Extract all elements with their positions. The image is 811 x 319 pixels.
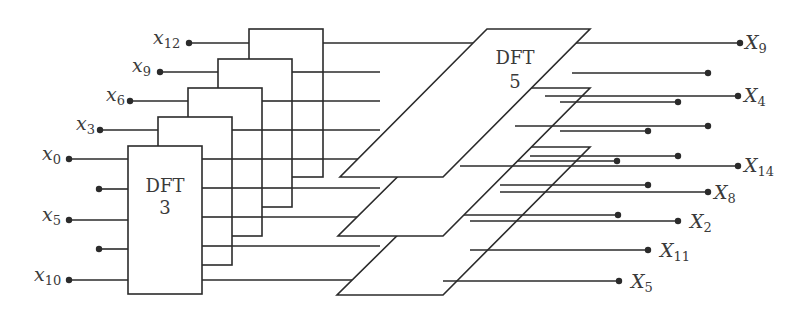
input-label-x9: x9 (132, 54, 151, 79)
output-label-X4: X4 (742, 84, 766, 109)
input-label-x3: x3 (76, 112, 95, 137)
dft3-size: 3 (159, 197, 170, 218)
input-label-x10: x10 (34, 263, 61, 288)
output-label-X5: X5 (629, 270, 653, 295)
output-label-X8: X8 (712, 181, 736, 206)
input-label-x5: x5 (42, 203, 61, 228)
output-labels: X9 X4 X14 X8 X2 X11 X5 (629, 31, 774, 295)
output-label-X9: X9 (743, 31, 767, 56)
dft5-size: 5 (509, 71, 520, 92)
input-label-x0: x0 (42, 142, 61, 167)
output-label-X14: X14 (742, 154, 774, 179)
input-label-x12: x12 (153, 26, 180, 51)
output-dots (614, 40, 743, 284)
dft5-label: DFT (496, 47, 535, 68)
input-label-x6: x6 (106, 83, 125, 108)
output-label-X11: X11 (658, 239, 690, 264)
output-label-X2: X2 (688, 210, 712, 235)
dft-15-diagram: DFT 3 DFT 5 (0, 0, 811, 319)
dft3-label: DFT (146, 175, 185, 196)
